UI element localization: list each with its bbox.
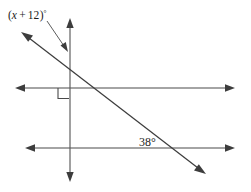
vertical-line bbox=[66, 18, 73, 182]
lower-horizontal-right-arrowhead bbox=[225, 144, 235, 152]
expression-variable: x bbox=[11, 9, 18, 21]
geometry-diagram-container: (x+12)° 38° bbox=[0, 0, 251, 192]
known-angle-label: 38° bbox=[139, 135, 156, 149]
vertical-bottom-arrowhead bbox=[66, 172, 73, 182]
expression-operator: + bbox=[19, 9, 26, 21]
right-angle-marker bbox=[58, 88, 69, 99]
right-angle-square-path bbox=[58, 88, 69, 99]
expression-constant: 12 bbox=[28, 9, 40, 21]
lower-horizontal-line bbox=[25, 144, 235, 152]
diagonal-transversal-line bbox=[21, 32, 206, 174]
vertical-top-arrowhead bbox=[66, 18, 73, 28]
upper-horizontal-left-arrowhead bbox=[15, 84, 25, 92]
label-pointer-arrowhead bbox=[61, 42, 69, 52]
expression-angle-label: (x+12)° bbox=[8, 9, 47, 22]
upper-horizontal-line bbox=[15, 84, 235, 92]
label-pointer-shaft bbox=[47, 21, 64, 46]
expression-degree-symbol: ° bbox=[44, 9, 47, 18]
label-pointer-arrow bbox=[47, 21, 68, 52]
geometry-canvas: (x+12)° 38° bbox=[0, 0, 251, 192]
upper-horizontal-right-arrowhead bbox=[225, 84, 235, 92]
lower-horizontal-left-arrowhead bbox=[25, 144, 35, 152]
